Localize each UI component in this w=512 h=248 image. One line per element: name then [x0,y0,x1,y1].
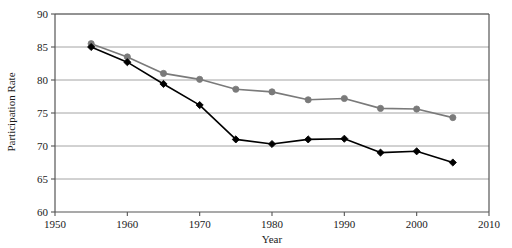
y-tick-label: 80 [37,74,49,86]
data-point-marker [197,76,203,82]
data-point-marker [450,115,456,121]
y-tick-label: 85 [37,41,49,53]
y-tick-label: 75 [37,107,49,119]
y-tick-label: 65 [37,173,49,185]
data-point-marker [341,95,347,101]
line-chart: 1950196019701980199020002010 60657075808… [0,0,512,248]
x-axis-title: Year [262,233,283,245]
data-point-marker [233,86,239,92]
y-tick-label: 70 [37,140,49,152]
data-point-marker [377,105,383,111]
x-tick-label: 2000 [406,218,429,230]
x-tick-label: 1990 [333,218,356,230]
y-tick-label: 90 [37,8,49,20]
data-point-marker [269,89,275,95]
y-axis-ticks: 60657075808590 [37,8,55,218]
data-point-marker [414,106,420,112]
y-tick-label: 60 [37,206,49,218]
chart-container: 1950196019701980199020002010 60657075808… [0,0,512,248]
y-axis-title: Participation Rate [5,72,17,151]
x-tick-label: 1980 [261,218,284,230]
x-axis-ticks: 1950196019701980199020002010 [44,212,501,230]
x-tick-label: 1950 [44,218,67,230]
x-tick-label: 1960 [116,218,139,230]
data-point-marker [160,70,166,76]
x-tick-label: 1970 [189,218,212,230]
x-tick-label: 2010 [478,218,501,230]
data-point-marker [305,97,311,103]
